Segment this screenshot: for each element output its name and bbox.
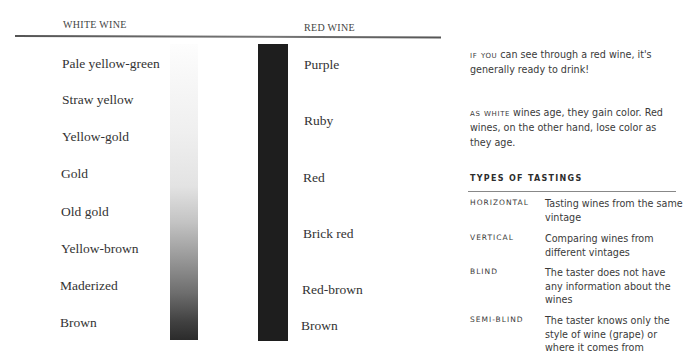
tasting-term: HORIZONTAL bbox=[470, 198, 529, 207]
white-color-label: Old gold bbox=[61, 204, 109, 220]
tasting-definition: The taster knows only the style of wine … bbox=[545, 314, 685, 355]
header-divider bbox=[15, 35, 441, 38]
white-color-label: Yellow-brown bbox=[61, 241, 138, 257]
note-text: can see through a red wine, it's general… bbox=[470, 49, 652, 75]
red-color-label: Brown bbox=[301, 318, 338, 334]
note-aging: As white wines age, they gain color. Red… bbox=[470, 105, 680, 150]
note-lead: If you bbox=[470, 49, 497, 60]
tasting-term: SEMI-BLIND bbox=[470, 315, 524, 324]
white-wine-color-gradient bbox=[170, 44, 198, 340]
red-wine-color-bar bbox=[258, 44, 288, 341]
red-color-label: Red bbox=[303, 170, 325, 186]
white-color-label: Straw yellow bbox=[62, 92, 134, 108]
white-color-label: Gold bbox=[61, 166, 88, 182]
note-lead: As white bbox=[470, 107, 510, 118]
red-color-label: Red-brown bbox=[302, 282, 363, 298]
white-color-label: Brown bbox=[60, 315, 97, 331]
note-see-through: If you can see through a red wine, it's … bbox=[470, 47, 680, 77]
white-color-label: Pale yellow-green bbox=[62, 56, 160, 72]
white-color-label: Yellow-gold bbox=[62, 129, 129, 145]
tasting-definition: Tasting wines from the same vintage bbox=[545, 197, 685, 224]
tasting-term: VERTICAL bbox=[470, 233, 514, 242]
tasting-definition: The taster does not have any information… bbox=[545, 266, 685, 307]
white-color-label: Maderized bbox=[60, 278, 118, 294]
tasting-definition: Comparing wines from different vintages bbox=[545, 232, 685, 259]
red-wine-header: RED WINE bbox=[304, 22, 355, 33]
red-color-label: Ruby bbox=[304, 113, 333, 129]
tastings-divider bbox=[468, 191, 676, 192]
white-wine-header: WHITE WINE bbox=[63, 19, 127, 30]
red-color-label: Purple bbox=[304, 57, 339, 73]
red-color-label: Brick red bbox=[303, 226, 354, 242]
tastings-title: TYPES OF TASTINGS bbox=[470, 174, 583, 183]
tasting-term: BLIND bbox=[470, 267, 498, 276]
